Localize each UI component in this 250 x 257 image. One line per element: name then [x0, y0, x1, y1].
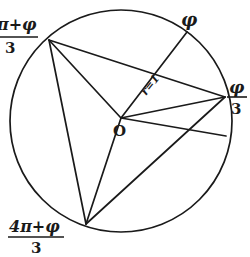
- label-phi-over-3-denominator: 3: [231, 100, 241, 118]
- segment-O-D: [121, 118, 226, 136]
- label-2pi-plus-phi-over-3: π+φ 3: [0, 15, 38, 57]
- label-4pi-plus-phi-over-3: 4π+φ 3: [8, 217, 64, 257]
- label-phi-over-3-numerator: φ: [229, 77, 245, 97]
- center-label-O: O: [113, 122, 126, 140]
- label-phi-over-3: φ 3: [227, 77, 247, 118]
- label-2pi-numerator: π+φ: [0, 15, 37, 34]
- label-phi: φ: [181, 9, 198, 30]
- label-2pi-denominator: 3: [5, 39, 15, 57]
- trisection-diagram: O r=1 φ φ 3 π+φ 3 4π+φ 3: [0, 0, 250, 257]
- side-B-C: [49, 40, 86, 224]
- radius-O-A: [121, 97, 225, 118]
- label-4pi-numerator: 4π+φ: [9, 217, 60, 236]
- label-4pi-denominator: 3: [31, 239, 41, 257]
